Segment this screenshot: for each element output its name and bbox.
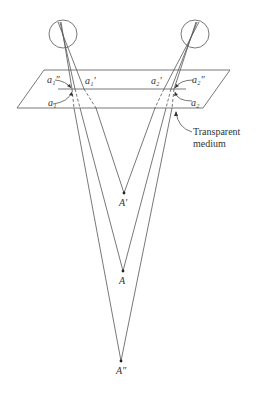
label-A: A — [118, 275, 126, 286]
leader-a2 — [175, 92, 192, 101]
point-A — [122, 270, 125, 273]
label-a1-prime: a₁′ — [85, 75, 96, 86]
leader-transparent-medium — [176, 112, 192, 132]
label-medium: medium — [193, 138, 226, 149]
label-transparent: Transparent — [193, 126, 241, 137]
ray-left-A-double-prime — [61, 22, 72, 89]
label-a1: a₁ — [48, 97, 56, 108]
label-a1-double-prime: a₁″ — [47, 74, 60, 85]
point-A-double-prime — [120, 360, 123, 363]
leader-a2-double-prime — [175, 80, 193, 88]
label-a2: a₂ — [191, 97, 200, 108]
stereo-diagram: a₁″ a₁′ a₁ a₂′ a₂″ a₂ Transparent medium… — [0, 0, 261, 399]
label-A-prime: A′ — [118, 197, 128, 208]
label-a2-double-prime: a₂″ — [192, 74, 205, 85]
label-A-double-prime: A″ — [115, 365, 127, 376]
label-a2-prime: a₂′ — [151, 75, 162, 86]
point-A-prime — [123, 192, 126, 195]
